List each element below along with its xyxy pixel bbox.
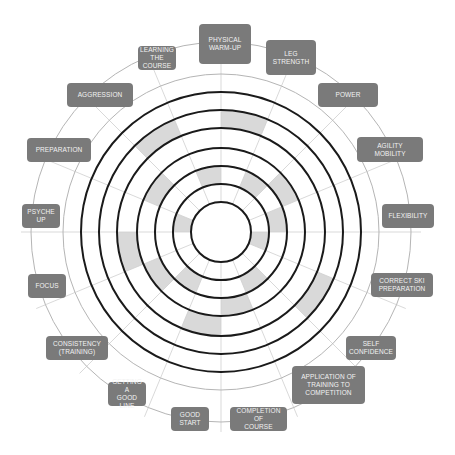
- score-ring: [191, 202, 251, 262]
- label-physical-warm-up: PHYSICAL WARM-UP: [199, 24, 251, 64]
- label-focus: FOCUS: [28, 274, 66, 298]
- label-agility-mobility: AGILITY MOBILITY: [357, 137, 423, 162]
- label-preparation: PREPARATION: [27, 138, 91, 162]
- label-completion-of-course: COMPLETION OF COURSE: [230, 407, 287, 431]
- label-getting-good-line: GETTING A GOOD LINE: [108, 382, 146, 406]
- label-power: POWER: [318, 83, 378, 107]
- spoke-line: [242, 91, 362, 211]
- label-flexibility: FLEXIBILITY: [382, 204, 434, 228]
- label-self-confidence: SELF CONFIDENCE: [346, 336, 396, 360]
- label-consistency-training: CONSISTENCY (TRAINING): [46, 336, 108, 360]
- label-application-training: APPLICATION OF TRAINING TO COMPETITION: [292, 366, 365, 404]
- label-leg-strength: LEG STRENGTH: [266, 40, 316, 75]
- label-correct-ski-preparation: CORRECT SKI PREPARATION: [371, 273, 433, 297]
- shaded-segment: [221, 110, 268, 136]
- spoke-line: [80, 91, 200, 211]
- label-good-start: GOOD START: [171, 407, 209, 431]
- label-aggression: AGGRESSION: [67, 83, 133, 107]
- label-psyche-up: PSYCHE UP: [22, 204, 60, 228]
- spoke-line: [242, 253, 362, 373]
- score-shading: [117, 110, 334, 336]
- label-learning-the-course: LEARNING THE COURSE: [138, 46, 176, 70]
